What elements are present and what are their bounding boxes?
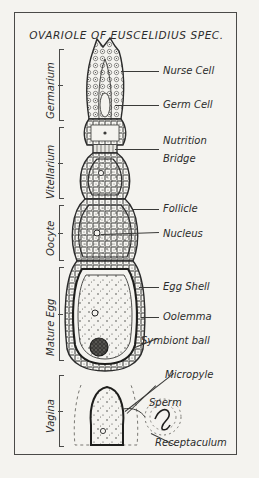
figure-page: OVARIOLE OF EUSCELIDIUS SPEC. Germarium … [0, 0, 259, 478]
leader-nutrition [115, 149, 159, 150]
germarium-drawing [87, 38, 124, 119]
callout-nutrition-bridge-line2: Bridge [163, 153, 196, 164]
callout-germ-cell: Germ Cell [163, 99, 213, 110]
callout-sperm: Sperm [149, 397, 182, 408]
leader-germ-cell [115, 105, 159, 106]
mature-egg-drawing [65, 261, 145, 371]
leader-egg-shell [139, 287, 159, 288]
leader-oolemma [141, 317, 159, 318]
sperm-shape [155, 410, 170, 430]
callout-oolemma: Oolemma [163, 311, 212, 322]
vitellarium-chamber-2 [80, 153, 129, 199]
nutrition-bridge-drawing [93, 145, 117, 153]
vagina-drawing [74, 385, 181, 445]
ovariole-drawing [15, 13, 238, 456]
callout-nutrition-bridge-line1: Nutrition [163, 135, 207, 146]
callout-egg-shell: Egg Shell [163, 281, 210, 292]
leader-nurse-cell [121, 71, 159, 72]
callout-nurse-cell: Nurse Cell [163, 65, 214, 76]
callout-symbiont-ball: Symbiont ball [141, 335, 210, 346]
callout-micropyle: Micropyle [165, 369, 213, 380]
vitellarium-chamber-1 [84, 119, 126, 145]
callout-nucleus: Nucleus [163, 228, 203, 239]
oocyte-chamber [72, 199, 137, 261]
figure-frame: OVARIOLE OF EUSCELIDIUS SPEC. Germarium … [14, 12, 237, 455]
leader-follicle [133, 209, 159, 210]
symbiont-ball-shape [90, 338, 108, 356]
callout-receptaculum: Receptaculum [155, 437, 227, 448]
callout-follicle: Follicle [163, 203, 198, 214]
